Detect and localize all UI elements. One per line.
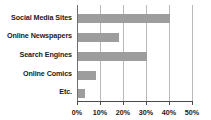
x-tick-label-0: 0% <box>72 108 82 117</box>
x-axis-line <box>77 101 193 102</box>
plot-area: 0% 10% 20% 30% 40% 50% <box>77 5 192 101</box>
category-label-search-engines: Search Engines <box>0 51 72 59</box>
x-tick-40 <box>169 101 170 105</box>
bar-chart: Social Media Sites Online Newspapers Sea… <box>0 0 211 120</box>
x-tick-label-10: 10% <box>93 108 107 117</box>
x-tick-20 <box>123 101 124 105</box>
category-label-online-newspapers: Online Newspapers <box>0 32 72 40</box>
bar-etc <box>78 89 85 98</box>
category-label-online-comics: Online Comics <box>0 70 72 78</box>
x-tick-30 <box>146 101 147 105</box>
gridline-50 <box>192 5 193 101</box>
x-tick-label-50: 50% <box>185 108 199 117</box>
x-tick-label-20: 20% <box>116 108 130 117</box>
bar-search-engines <box>78 52 147 61</box>
x-tick-label-40: 40% <box>162 108 176 117</box>
x-tick-50 <box>192 101 193 105</box>
bar-online-newspapers <box>78 33 119 42</box>
bar-online-comics <box>78 71 96 80</box>
category-axis-labels: Social Media Sites Online Newspapers Sea… <box>0 0 74 101</box>
x-tick-label-30: 30% <box>139 108 153 117</box>
bar-social-media-sites <box>78 14 170 23</box>
x-tick-10 <box>100 101 101 105</box>
x-tick-0 <box>77 101 78 105</box>
category-label-social-media-sites: Social Media Sites <box>0 14 72 22</box>
category-label-etc: Etc. <box>0 88 72 96</box>
